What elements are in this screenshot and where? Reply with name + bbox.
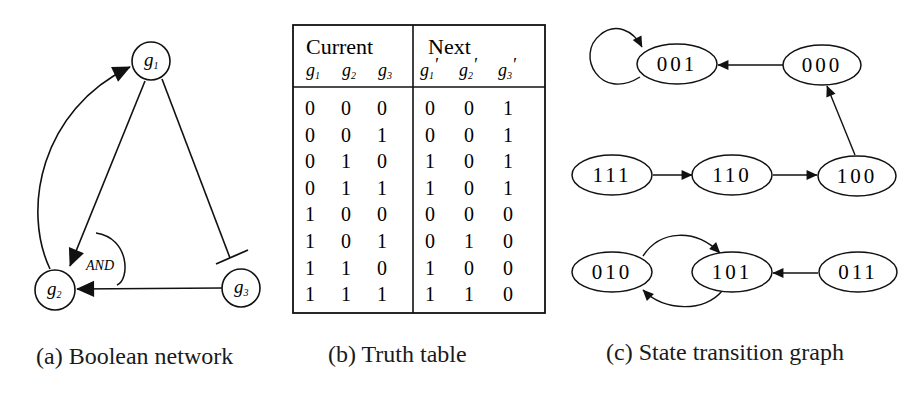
table-cell: 0 [341,97,351,119]
table-cell: 1 [425,283,435,305]
svg-text:101: 101 [712,260,753,284]
caption-c: (c) State transition graph [606,339,844,365]
edge-g1-to-g2 [70,81,145,266]
edge-001-self-loop [590,29,642,85]
table-row: 111110 [305,283,513,305]
table-cell: 1 [377,283,387,305]
table-cell: 0 [377,97,387,119]
table-cell: 0 [503,257,513,279]
table-cell: 0 [464,124,474,146]
state-001: 001 [637,44,717,84]
svg-text:010: 010 [592,260,633,284]
state-111: 111 [572,155,652,195]
table-row: 010101 [305,150,513,172]
boolean-network-panel: AND g1 g2 g3 (a) Boolean network [35,42,260,369]
edge-g1-inhibits-g3 [162,79,230,258]
and-gate-label: AND [85,258,114,273]
table-body: 0000010010010101010111011000001010101101… [305,97,513,305]
table-cell: 0 [377,203,387,225]
table-cell: 0 [503,283,513,305]
table-cell: 0 [377,150,387,172]
state-011: 011 [819,252,897,292]
table-cell: 0 [305,177,315,199]
node-g3: g3 [222,269,260,307]
figure-canvas: AND g1 g2 g3 (a) Boolean network Current… [0,0,924,399]
col-g3: g3 [378,60,392,81]
svg-text:001: 001 [657,52,698,76]
svg-text:011: 011 [838,260,878,284]
state-transition-panel: 001 000 111 110 100 010 101 011 [572,29,897,365]
table-cell: 1 [377,177,387,199]
table-cell: 0 [464,203,474,225]
table-row: 001001 [305,124,513,146]
table-cell: 0 [341,124,351,146]
table-cell: 1 [377,124,387,146]
table-cell: 0 [425,230,435,252]
table-cell: 0 [425,203,435,225]
edge-100-to-000 [827,86,855,155]
table-cell: 1 [305,257,315,279]
table-cell: 0 [305,124,315,146]
table-cell: 0 [341,203,351,225]
state-110: 110 [692,155,772,195]
table-row: 110100 [305,257,513,279]
state-100: 100 [818,156,896,196]
table-cell: 1 [425,150,435,172]
svg-text:000: 000 [802,53,843,77]
table-cell: 0 [503,203,513,225]
table-cell: 1 [341,177,351,199]
table-cell: 1 [425,177,435,199]
edge-010-to-101 [643,235,720,256]
table-cell: 1 [305,230,315,252]
table-cell: 1 [341,257,351,279]
state-000: 000 [783,45,861,85]
table-cell: 0 [377,257,387,279]
table-cell: 1 [503,177,513,199]
table-cell: 1 [377,230,387,252]
header-current: Current [306,34,373,59]
table-row: 100000 [305,203,513,225]
svg-text:110: 110 [712,163,752,187]
truth-table-panel: Current Next g1 g2 g3 g1′ g2′ g3′ 000001… [293,25,545,367]
table-cell: 1 [464,230,474,252]
table-row: 101010 [305,230,513,252]
table-cell: 0 [425,97,435,119]
table-cell: 1 [503,124,513,146]
table-cell: 0 [503,230,513,252]
col-g3-next: g3′ [498,55,517,81]
table-cell: 0 [305,150,315,172]
caption-b: (b) Truth table [328,341,467,367]
table-cell: 0 [305,97,315,119]
table-cell: 1 [503,150,513,172]
edge-101-to-010 [643,290,722,307]
table-row: 000001 [305,97,513,119]
col-g1: g1 [306,60,320,81]
table-cell: 0 [464,257,474,279]
table-cell: 0 [464,177,474,199]
state-101: 101 [692,252,772,292]
node-g1: g1 [132,42,170,80]
table-cell: 1 [464,283,474,305]
table-cell: 1 [341,150,351,172]
table-row: 011101 [305,177,513,199]
inhibition-bar-icon [216,250,248,264]
table-cell: 0 [341,230,351,252]
edge-g2-to-g1 [38,67,130,269]
table-cell: 1 [425,257,435,279]
svg-text:100: 100 [837,164,878,188]
table-cell: 0 [425,124,435,146]
table-cell: 0 [464,97,474,119]
node-g2: g2 [35,270,75,310]
caption-a: (a) Boolean network [36,343,233,369]
table-cell: 1 [305,203,315,225]
table-cell: 1 [503,97,513,119]
edge-g3-to-g2 [77,288,222,289]
table-cell: 0 [464,150,474,172]
svg-text:111: 111 [593,163,632,187]
table-cell: 1 [305,283,315,305]
state-010: 010 [572,252,652,292]
col-g2: g2 [342,60,356,81]
table-cell: 1 [341,283,351,305]
